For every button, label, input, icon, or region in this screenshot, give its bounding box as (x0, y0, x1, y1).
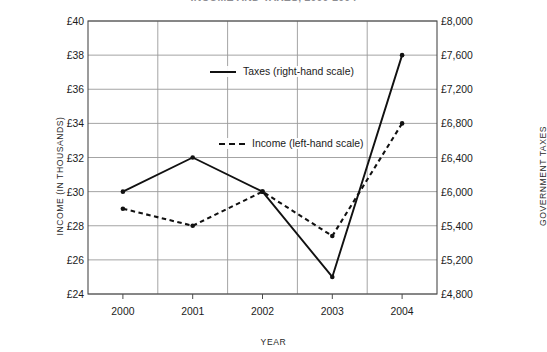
legend-label-taxes: Taxes (right-hand scale) (243, 66, 354, 77)
legend-label-income: Income (left-hand scale) (252, 138, 363, 149)
plot-area (0, 0, 547, 352)
chart-container: INCOME AND TAXES, 2000-2004 INCOME (IN T… (0, 0, 547, 352)
legend-swatch-income-icon (219, 143, 245, 145)
plot-frame (88, 21, 437, 299)
legend-item-taxes: Taxes (right-hand scale) (207, 66, 357, 77)
series-lines (121, 53, 405, 279)
legend-swatch-taxes-icon (210, 71, 236, 73)
gridlines (88, 21, 437, 294)
legend-item-income: Income (left-hand scale) (216, 138, 366, 149)
